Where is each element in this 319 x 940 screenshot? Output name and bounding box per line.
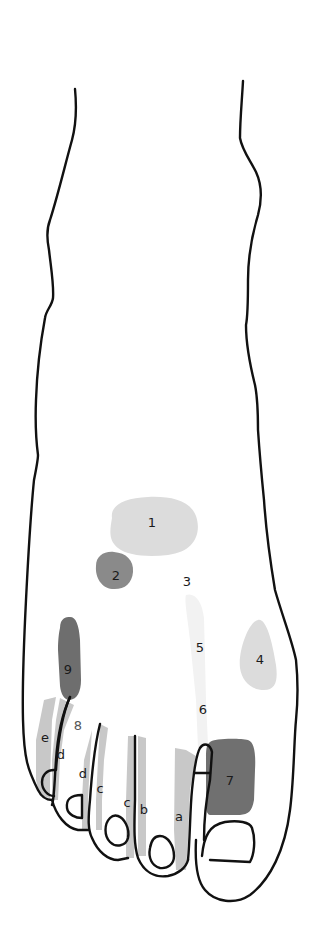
- fourth-toe-nail: [67, 795, 82, 818]
- foot-diagram: 1 2 3 4 5 6 7 8 9 a b c c d d e: [0, 0, 319, 940]
- toe-label-d-left: d: [57, 747, 65, 762]
- zone-4-label: 4: [256, 652, 264, 667]
- zone-3-5-6-area: [185, 594, 208, 748]
- toe-strip-b: [138, 736, 146, 856]
- toe-label-c-left: c: [96, 781, 103, 796]
- foot-illustration: 1 2 3 4 5 6 7 8 9 a b c c d d e: [0, 0, 319, 940]
- zone-7-label: 7: [226, 773, 234, 788]
- zone-9-label: 9: [64, 662, 72, 677]
- toe-label-b: b: [140, 802, 148, 817]
- zone-8-label: 8: [74, 718, 82, 733]
- zone-9-area: [58, 617, 81, 700]
- toe-label-d-right: d: [79, 766, 87, 781]
- zone-1-label: 1: [148, 515, 156, 530]
- toe-label-c-right: c: [123, 795, 130, 810]
- second-toe-nail: [149, 836, 174, 868]
- zone-6-label: 6: [199, 702, 207, 717]
- zone-2-label: 2: [112, 568, 120, 583]
- zone-5-label: 5: [196, 640, 204, 655]
- zone-3-label: 3: [183, 574, 191, 589]
- toe-label-e: e: [41, 730, 49, 745]
- big-toe-nail: [202, 821, 254, 862]
- toe-label-a: a: [175, 809, 183, 824]
- third-toe-nail: [106, 816, 129, 846]
